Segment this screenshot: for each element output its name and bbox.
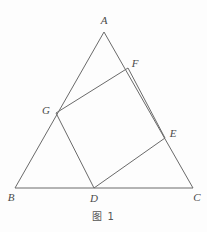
vertex-label-f: F: [132, 58, 139, 69]
vertex-label-e: E: [170, 128, 177, 139]
vertex-label-d: D: [90, 193, 98, 204]
geometry-canvas: [0, 0, 207, 232]
geometry-figure: A B C D E F G 图 1: [0, 0, 207, 232]
vertex-label-g: G: [42, 105, 50, 116]
figure-caption: 图 1: [0, 211, 207, 223]
vertex-label-c: C: [193, 192, 200, 203]
square-defg-outline: [56, 68, 165, 188]
vertex-label-b: B: [8, 192, 15, 203]
vertex-label-a: A: [101, 15, 108, 26]
